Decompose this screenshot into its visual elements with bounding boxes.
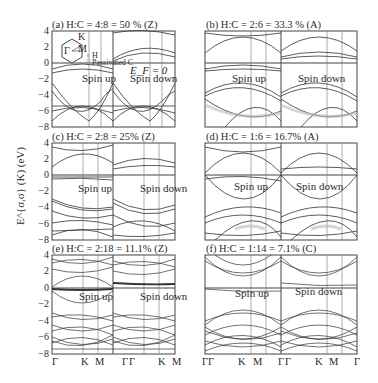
panel-b-spin-down: Spin down	[298, 73, 345, 84]
panel-d-spin-up: Spin up	[234, 181, 268, 192]
panel-f	[205, 255, 357, 354]
panel-f-title: (f) H:C = 1:14 = 7.1% (C)	[206, 243, 316, 254]
inset-legend-passivated: Passivated C	[92, 59, 133, 67]
panel-b-spin-up: Spin up	[232, 73, 266, 84]
panel-b-title: (b) H:C = 2:6 = 33.3 % (A)	[206, 19, 321, 30]
y-axis-label: E^{σ,σ} (K) (eV)	[14, 147, 26, 225]
fermi-level-label: E_F = 0	[130, 65, 167, 76]
panel-d-title: (d) H:C = 1:6 = 16.7% (A)	[206, 131, 318, 142]
panel-f-spin-down: Spin down	[295, 286, 342, 297]
panel-e-spin-up: Spin up	[79, 291, 113, 302]
panel-e	[52, 255, 175, 354]
panel-c-title: (c) H:C = 2:8 = 25% (Z)	[52, 131, 155, 142]
inset-label-gamma: Γ	[64, 47, 70, 55]
panel-e-spin-down: Spin down	[140, 291, 187, 302]
panel-e-title: (e) H:C = 2:18 = 11.1% (Z)	[52, 243, 168, 254]
inset-label-m: M	[78, 45, 87, 53]
panel-d-spin-down: Spin down	[296, 181, 343, 192]
panel-f-spin-up: Spin up	[235, 288, 269, 299]
panel-a-spin-up: Spin up	[82, 73, 116, 84]
panel-c-spin-up: Spin up	[78, 183, 112, 194]
band-structure-figure: (a) H:C = 4:8 = 50 % (Z) (b) H:C = 2:6 =…	[0, 0, 378, 383]
panel-a-title: (a) H:C = 4:8 = 50 % (Z)	[52, 19, 157, 30]
inset-label-k: K	[78, 33, 85, 41]
panel-c-spin-down: Spin down	[140, 183, 187, 194]
